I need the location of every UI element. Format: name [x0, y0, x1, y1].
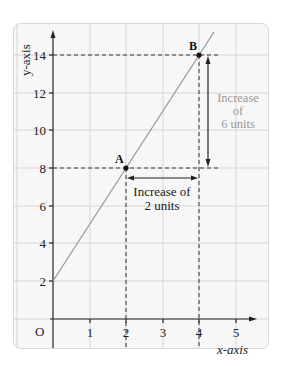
svg-text:2: 2 — [123, 325, 130, 340]
svg-text:5: 5 — [233, 325, 240, 340]
point-b-marker — [196, 52, 201, 57]
svg-text:2: 2 — [40, 274, 47, 289]
svg-text:8: 8 — [40, 161, 47, 176]
point-b-label: B — [189, 39, 197, 53]
vertical-annotation-line3: 6 units — [221, 117, 255, 131]
svg-text:14: 14 — [33, 48, 47, 63]
svg-text:10: 10 — [33, 123, 46, 138]
graph-figure: A B Increase of 2 units Increase of 6 un… — [0, 0, 283, 379]
svg-text:4: 4 — [40, 236, 47, 251]
point-a-label: A — [115, 152, 124, 166]
horizontal-annotation-line2: 2 units — [144, 198, 179, 213]
svg-text:4: 4 — [196, 325, 203, 340]
horizontal-annotation-line1: Increase of — [133, 184, 191, 199]
svg-text:6: 6 — [40, 199, 47, 214]
y-axis-label: y-axis — [18, 44, 33, 76]
svg-text:3: 3 — [160, 325, 167, 340]
vertical-annotation-line2: of — [233, 104, 244, 118]
vertical-annotation-line1: Increase — [217, 91, 259, 105]
svg-text:1: 1 — [87, 325, 94, 340]
origin-label: O — [35, 324, 44, 339]
svg-text:12: 12 — [33, 86, 46, 101]
x-axis-label: x-axis — [216, 342, 248, 357]
point-a-marker — [123, 165, 128, 170]
